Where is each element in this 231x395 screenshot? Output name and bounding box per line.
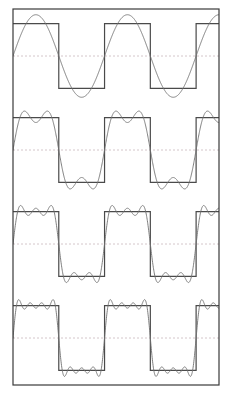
panel-3-harmonics <box>13 197 219 283</box>
fourier-partial-sum-curve <box>13 205 219 282</box>
outer-frame <box>13 9 219 385</box>
panel-4-harmonics <box>13 291 219 376</box>
ideal-square-wave <box>13 118 219 183</box>
ideal-square-wave <box>13 306 219 371</box>
panels-group <box>13 15 219 377</box>
fourier-series-figure <box>0 0 231 395</box>
fourier-partial-sum-curve <box>13 111 219 189</box>
panel-2-harmonics <box>13 103 219 189</box>
fourier-partial-sum-curve <box>13 15 219 98</box>
figure-canvas <box>0 0 231 395</box>
fourier-partial-sum-curve <box>13 300 219 377</box>
ideal-square-wave <box>13 212 219 277</box>
panel-1-harmonic <box>13 15 219 98</box>
